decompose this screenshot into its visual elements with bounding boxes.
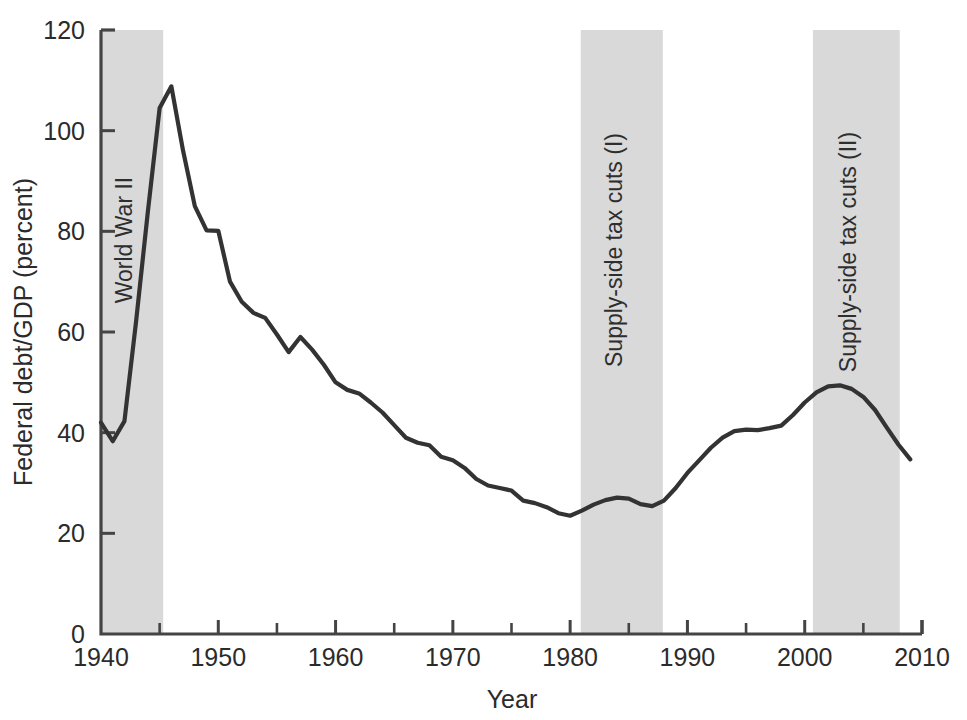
x-tick-label: 1950 — [190, 643, 246, 671]
y-tick-label: 20 — [57, 519, 85, 547]
band-annotation-label: World War II — [111, 177, 137, 304]
y-tick-label: 120 — [43, 16, 85, 44]
x-tick-label: 2010 — [894, 643, 950, 671]
y-tick-label: 100 — [43, 117, 85, 145]
debt-gdp-line-chart: 19401950196019701980199020002010 0204060… — [0, 0, 967, 720]
x-tick-label: 1980 — [542, 643, 598, 671]
y-tick-label: 80 — [57, 217, 85, 245]
x-tick-label: 1990 — [660, 643, 716, 671]
y-tick-label: 0 — [71, 620, 85, 648]
band-annotation-label: Supply-side tax cuts (I) — [601, 133, 627, 367]
x-axis-title: Year — [487, 685, 538, 713]
figure-container: 19401950196019701980199020002010 0204060… — [0, 0, 967, 720]
y-axis-title: Federal debt/GDP (percent) — [9, 178, 37, 486]
band-annotation-label: Supply-side tax cuts (II) — [835, 132, 861, 372]
y-tick-label: 60 — [57, 318, 85, 346]
x-tick-label: 1970 — [425, 643, 481, 671]
x-tick-label: 1960 — [308, 643, 364, 671]
x-tick-label: 2000 — [777, 643, 833, 671]
y-tick-label: 40 — [57, 419, 85, 447]
